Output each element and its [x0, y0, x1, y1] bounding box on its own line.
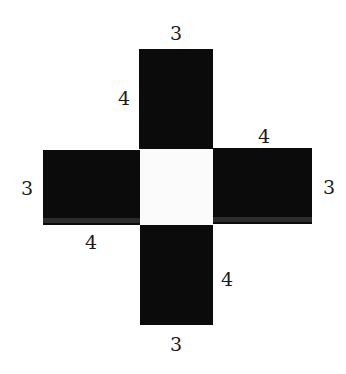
right-face — [213, 148, 312, 224]
bottom-face-width-label: 3 — [170, 335, 182, 354]
bottom-face — [140, 225, 213, 325]
left-face-width-label: 4 — [85, 233, 97, 252]
left-face-shading — [43, 218, 140, 223]
left-face — [43, 150, 140, 225]
top-face-width-label: 3 — [170, 24, 182, 43]
center-square — [140, 149, 213, 225]
left-face-height-label: 3 — [21, 179, 33, 198]
top-face-height-label: 4 — [118, 89, 130, 108]
prism-net-diagram: 3 4 4 3 3 4 4 3 — [0, 0, 346, 374]
right-face-shading — [213, 217, 312, 222]
bottom-face-height-label: 4 — [221, 270, 233, 289]
right-face-width-label: 4 — [258, 127, 270, 146]
right-face-height-label: 3 — [323, 178, 335, 197]
top-face — [139, 49, 213, 149]
